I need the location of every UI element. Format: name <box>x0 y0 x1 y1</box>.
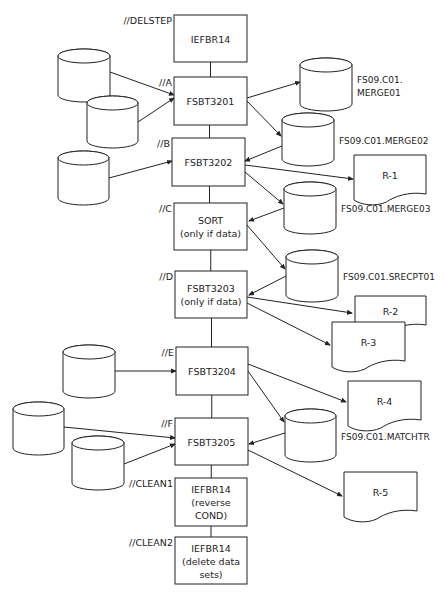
cylinder-top <box>72 436 124 450</box>
report-label: R-4 <box>377 396 393 407</box>
dataset-in3 <box>58 151 109 205</box>
step-clean2: IEFBR14(delete datasets)//CLEAN2 <box>129 537 247 584</box>
flow-arrow <box>138 98 174 122</box>
step-program-label: FSBT3205 <box>188 437 236 448</box>
dataset-in1 <box>58 49 110 102</box>
flow-arrow <box>249 276 286 295</box>
dataset-label: FS09.C01. <box>357 75 403 85</box>
step-name-label: //DELSTEP <box>123 15 172 26</box>
jcl-job-flow-diagram: FS09.C01.MERGE01FS09.C01.MERGE02FS09.C01… <box>0 0 445 595</box>
report-label: R-3 <box>361 337 377 348</box>
dataset-in2 <box>87 96 138 148</box>
step-c: SORT(only if data)//C <box>159 203 247 250</box>
cylinder-top <box>63 345 115 359</box>
dataset-label: FS09.C01.SRECPT01 <box>343 272 435 282</box>
report-r3: R-3 <box>332 322 405 372</box>
step-d: FSBT3203(only if data)//D <box>159 271 247 318</box>
step-program-label: IEFBR14 <box>191 34 230 45</box>
step-name-label: //D <box>159 271 173 282</box>
cylinder-top <box>284 182 336 196</box>
step-name-label: //CLEAN1 <box>129 478 173 489</box>
cylinder-top <box>300 58 352 72</box>
flow-arrow <box>124 444 175 464</box>
dataset-label: FS09.C01.MERGE02 <box>339 136 428 146</box>
report-label: R-2 <box>383 306 399 317</box>
cylinder-top <box>286 250 338 264</box>
step-f: FSBT3205//F <box>161 418 248 465</box>
step-delstep: IEFBR14//DELSTEP <box>123 15 247 62</box>
cylinder-top <box>58 49 110 63</box>
dataset-in5 <box>13 402 64 455</box>
flow-arrow <box>245 172 283 204</box>
step-name-label: //E <box>162 347 174 358</box>
dataset-label: MERGE01 <box>357 88 401 98</box>
cylinder-top <box>87 96 138 110</box>
step-program-label: (only if data) <box>180 228 241 239</box>
step-program-label: IEFBR14 <box>191 484 230 495</box>
step-program-label: FSBT3204 <box>188 366 236 377</box>
step-program-label: FSBT3202 <box>185 157 233 168</box>
step-program-label: COND) <box>195 510 227 521</box>
flow-arrow <box>247 101 281 136</box>
step-name-label: //A <box>159 77 172 88</box>
dataset-in4 <box>63 345 115 398</box>
report-r4: R-4 <box>348 381 421 431</box>
dataset-merge01: FS09.C01.MERGE01 <box>300 58 403 111</box>
cylinder-top <box>282 113 334 127</box>
cylinder-top <box>13 402 64 416</box>
cylinder-top <box>58 151 109 165</box>
step-name-label: //CLEAN2 <box>129 537 173 548</box>
flow-arrow <box>109 161 172 178</box>
flow-arrow <box>245 146 282 161</box>
cylinder-top <box>285 409 336 423</box>
step-program-label: (reverse <box>191 497 231 508</box>
step-name-label: //C <box>159 203 172 214</box>
report-r1: R-1 <box>354 155 426 205</box>
step-box <box>175 271 247 318</box>
step-clean1: IEFBR14(reverseCOND)//CLEAN1 <box>129 478 247 526</box>
flow-arrow <box>249 433 285 444</box>
step-a: FSBT3201//A <box>159 77 247 125</box>
report-label: R-5 <box>373 487 389 498</box>
flow-arrow <box>249 208 284 221</box>
step-name-label: //B <box>157 138 170 149</box>
flow-arrow <box>247 225 285 269</box>
step-program-label: IEFBR14 <box>191 543 230 554</box>
report-r5: R-5 <box>344 472 417 522</box>
report-label: R-1 <box>382 170 398 181</box>
step-program-label: (delete data <box>182 556 240 567</box>
step-box <box>174 203 247 250</box>
dataset-label: FS09.C01.MATCHTR <box>341 432 430 442</box>
flow-arrow <box>247 82 300 98</box>
dataset-srecpt01: FS09.C01.SRECPT01 <box>286 250 435 302</box>
step-program-label: sets) <box>199 569 222 580</box>
flow-arrow <box>248 364 346 402</box>
dataset-label: FS09.C01.MERGE03 <box>341 204 430 214</box>
flow-arrow <box>245 165 353 179</box>
flow-arrow <box>248 371 284 422</box>
step-program-label: SORT <box>198 215 223 226</box>
step-name-label: //F <box>161 418 173 429</box>
dataset-in6 <box>72 436 124 490</box>
step-program-label: (only if data) <box>181 296 242 307</box>
flow-arrow <box>247 303 330 345</box>
step-program-label: FSBT3201 <box>187 96 235 107</box>
job-steps: IEFBR14//DELSTEPFSBT3201//AFSBT3202//BSO… <box>123 15 248 584</box>
step-b: FSBT3202//B <box>157 138 245 186</box>
flow-arrow <box>64 427 175 438</box>
step-program-label: FSBT3203 <box>187 283 235 294</box>
